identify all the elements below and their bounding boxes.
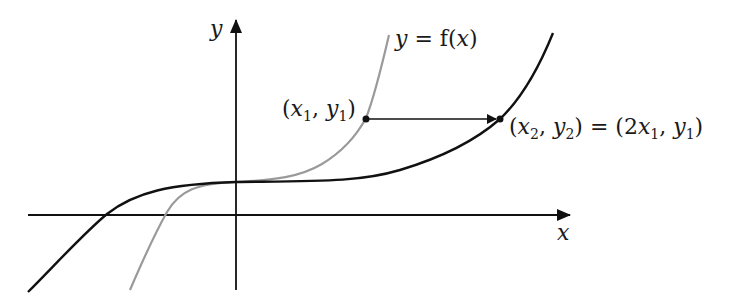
point-2-label: (x2, y2) = (2x1, y1) xyxy=(509,114,703,142)
y-axis-label: y xyxy=(209,16,223,41)
point-1-label: (x1, y1) xyxy=(282,96,356,124)
curve-f-original xyxy=(130,35,389,290)
point-x1-y1 xyxy=(363,116,370,123)
curve-label-f: y = f(x) xyxy=(394,26,478,51)
function-stretch-diagram: y x y = f(x) (x1, y1) (x2, y2) = (2x1, y… xyxy=(0,0,731,307)
point-x2-y2 xyxy=(497,116,504,123)
x-axis-label: x xyxy=(557,220,570,245)
curve-stretched xyxy=(28,33,553,292)
